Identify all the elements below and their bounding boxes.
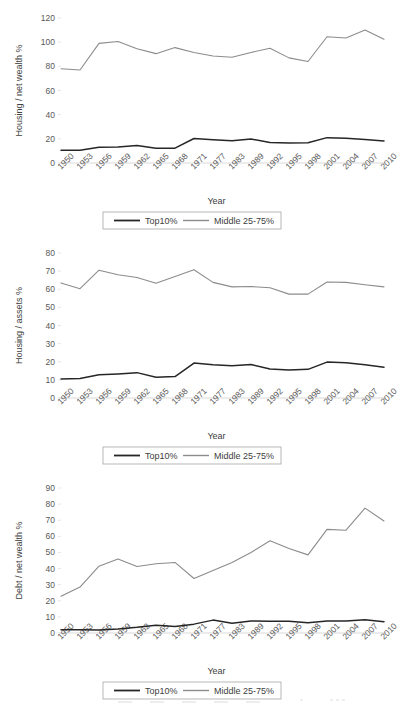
x-tick-group: 2001 bbox=[321, 386, 342, 407]
y-tick-label: 30 bbox=[46, 580, 56, 590]
x-tick-label: 1953 bbox=[74, 621, 95, 642]
x-tick-group: 1977 bbox=[207, 621, 228, 642]
series-line-middle[interactable] bbox=[61, 30, 384, 70]
x-tick-group: 1992 bbox=[264, 386, 285, 407]
x-tick-label: 1965 bbox=[150, 386, 171, 407]
y-tick-label: 40 bbox=[46, 110, 56, 120]
y-axis-title: Debt / net wealth % bbox=[14, 521, 24, 599]
x-tick-group: 1953 bbox=[74, 621, 95, 642]
x-tick-group: 1977 bbox=[207, 151, 228, 172]
y-tick-label: 50 bbox=[46, 547, 56, 557]
y-tick-label: 60 bbox=[46, 284, 56, 294]
x-tick-group: 1956 bbox=[93, 151, 114, 172]
figure-page: 020406080100120Housing / net wealth %195… bbox=[0, 0, 400, 705]
x-tick-label: 2010 bbox=[378, 386, 399, 407]
y-axis-title: Housing / assets % bbox=[14, 287, 24, 364]
x-tick-group: 1962 bbox=[131, 151, 152, 172]
scan-speckle bbox=[246, 701, 260, 703]
series-line-middle[interactable] bbox=[61, 508, 384, 596]
x-tick-label: 2007 bbox=[359, 386, 380, 407]
x-tick-group: 2007 bbox=[359, 151, 380, 172]
scan-speckle bbox=[150, 701, 164, 703]
x-tick-group: 1956 bbox=[93, 621, 114, 642]
x-tick-label: 2010 bbox=[378, 151, 399, 172]
x-tick-group: 1965 bbox=[150, 621, 171, 642]
x-tick-group: 1971 bbox=[188, 386, 209, 407]
x-tick-group: 1953 bbox=[74, 386, 95, 407]
y-tick-label: 20 bbox=[46, 134, 56, 144]
x-tick-group: 2004 bbox=[340, 151, 361, 172]
x-tick-group: 1968 bbox=[169, 151, 190, 172]
y-tick-label: 100 bbox=[41, 37, 55, 47]
x-tick-label: 1983 bbox=[226, 621, 247, 642]
x-tick-group: 1998 bbox=[302, 621, 323, 642]
y-tick-label: 0 bbox=[50, 158, 55, 168]
x-tick-label: 1971 bbox=[188, 151, 209, 172]
x-tick-label: 1950 bbox=[55, 151, 76, 172]
x-tick-group: 1992 bbox=[264, 151, 285, 172]
y-tick-label: 90 bbox=[46, 483, 56, 493]
x-tick-group: 1983 bbox=[226, 151, 247, 172]
x-tick-label: 1995 bbox=[283, 386, 304, 407]
x-tick-label: 1959 bbox=[112, 386, 133, 407]
x-tick-label: 1956 bbox=[93, 151, 114, 172]
x-tick-label: 1965 bbox=[150, 151, 171, 172]
x-tick-label: 1992 bbox=[264, 151, 285, 172]
x-tick-label: 1962 bbox=[131, 386, 152, 407]
scan-speckle bbox=[300, 699, 303, 701]
x-tick-group: 1998 bbox=[302, 386, 323, 407]
x-axis-title: Year bbox=[207, 666, 225, 676]
scan-speckle bbox=[214, 701, 228, 703]
y-tick-label: 60 bbox=[46, 531, 56, 541]
x-tick-group: 1995 bbox=[283, 151, 304, 172]
y-tick-label: 40 bbox=[46, 321, 56, 331]
x-tick-group: 1962 bbox=[131, 386, 152, 407]
x-tick-group: 2007 bbox=[359, 386, 380, 407]
x-tick-group: 1959 bbox=[112, 621, 133, 642]
x-tick-label: 1983 bbox=[226, 386, 247, 407]
y-tick-label: 80 bbox=[46, 248, 56, 258]
series-line-middle[interactable] bbox=[61, 270, 384, 294]
x-tick-label: 2004 bbox=[340, 151, 361, 172]
y-tick-label: 30 bbox=[46, 339, 56, 349]
x-tick-group: 2010 bbox=[378, 151, 399, 172]
x-tick-label: 1959 bbox=[112, 621, 133, 642]
x-tick-label: 1968 bbox=[169, 386, 190, 407]
x-tick-group: 1956 bbox=[93, 386, 114, 407]
series-line-top10[interactable] bbox=[61, 362, 384, 379]
y-tick-label: 120 bbox=[41, 13, 55, 23]
y-tick-label: 70 bbox=[46, 266, 56, 276]
x-tick-label: 1998 bbox=[302, 621, 323, 642]
x-tick-group: 1950 bbox=[55, 151, 76, 172]
x-tick-group: 1959 bbox=[112, 151, 133, 172]
x-tick-group: 1995 bbox=[283, 386, 304, 407]
x-tick-label: 1950 bbox=[55, 386, 76, 407]
x-tick-group: 1953 bbox=[74, 151, 95, 172]
x-tick-label: 1995 bbox=[283, 621, 304, 642]
x-tick-label: 2004 bbox=[340, 621, 361, 642]
y-tick-label: 20 bbox=[46, 357, 56, 367]
chart-canvas: 020406080100120Housing / net wealth %195… bbox=[0, 0, 400, 235]
x-tick-group: 1965 bbox=[150, 151, 171, 172]
x-tick-group: 2010 bbox=[378, 621, 399, 642]
y-tick-label: 60 bbox=[46, 86, 56, 96]
y-tick-label: 0 bbox=[50, 628, 55, 638]
x-tick-label: 1989 bbox=[245, 386, 266, 407]
x-tick-group: 2004 bbox=[340, 386, 361, 407]
x-tick-group: 1971 bbox=[188, 151, 209, 172]
x-tick-group: 1983 bbox=[226, 621, 247, 642]
series-line-top10[interactable] bbox=[61, 138, 384, 151]
x-tick-label: 1956 bbox=[93, 386, 114, 407]
x-tick-label: 2001 bbox=[321, 386, 342, 407]
x-tick-label: 1965 bbox=[150, 621, 171, 642]
y-tick-label: 80 bbox=[46, 61, 56, 71]
y-tick-label: 70 bbox=[46, 515, 56, 525]
legend-label-middle: Middle 25-75% bbox=[214, 216, 274, 226]
x-tick-label: 1992 bbox=[264, 386, 285, 407]
x-tick-group: 1989 bbox=[245, 386, 266, 407]
x-tick-label: 1989 bbox=[245, 621, 266, 642]
legend-label-middle: Middle 25-75% bbox=[214, 686, 274, 696]
x-tick-label: 1977 bbox=[207, 621, 228, 642]
y-tick-label: 50 bbox=[46, 302, 56, 312]
chart-housing-assets: 01020304050607080Housing / assets %19501… bbox=[0, 235, 400, 470]
